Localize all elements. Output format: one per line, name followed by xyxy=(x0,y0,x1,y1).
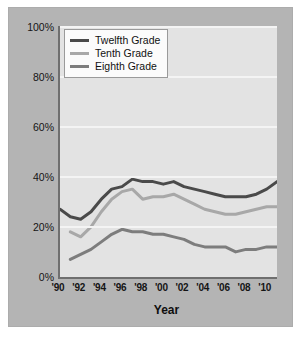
legend-label: Tenth Grade xyxy=(95,48,153,59)
legend-label: Twelfth Grade xyxy=(95,35,160,46)
legend-swatch-icon xyxy=(70,52,89,55)
series-line-eighth-grade xyxy=(70,229,277,259)
gridline-100 xyxy=(60,26,277,28)
gridline-40 xyxy=(60,176,277,178)
gridline-20 xyxy=(60,226,277,228)
x-axis-title: Year xyxy=(58,303,275,317)
y-tick-label: 40% xyxy=(6,172,54,183)
legend-item-tenth-grade: Tenth Grade xyxy=(70,47,160,60)
chart-legend: Twelfth Grade Tenth Grade Eighth Grade xyxy=(64,29,168,78)
legend-swatch-icon xyxy=(70,39,89,42)
y-tick-label: 60% xyxy=(6,122,54,133)
y-tick-label: 0% xyxy=(6,272,54,283)
legend-item-eighth-grade: Eighth Grade xyxy=(70,60,160,73)
y-tick-label: 80% xyxy=(6,72,54,83)
chart-figure: 100% 80% 60% 40% 20% 0% Twelfth Grade xyxy=(0,0,302,338)
y-tick-label: 100% xyxy=(6,22,54,33)
legend-label: Eighth Grade xyxy=(95,61,157,72)
gridline-60 xyxy=(60,126,277,128)
x-tick-label: '10 xyxy=(253,283,277,293)
legend-swatch-icon xyxy=(70,65,89,68)
legend-item-twelfth-grade: Twelfth Grade xyxy=(70,34,160,47)
y-tick-label: 20% xyxy=(6,222,54,233)
